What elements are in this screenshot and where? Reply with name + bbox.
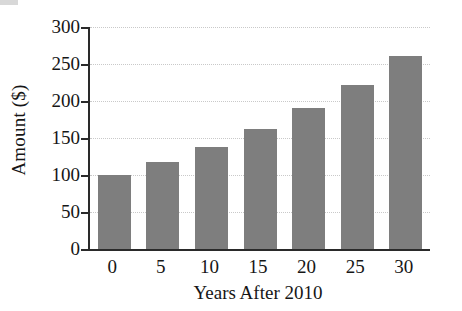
- y-axis-tick: [81, 101, 90, 103]
- x-axis-tick-label: 10: [186, 256, 232, 278]
- y-axis-tick: [81, 138, 90, 140]
- y-axis-tick-label: 300: [20, 16, 80, 38]
- y-axis-tick: [81, 27, 90, 29]
- bar: [195, 147, 228, 249]
- x-axis-tick-label: 0: [89, 256, 135, 278]
- bar: [146, 162, 179, 249]
- y-axis-tick-label: 50: [20, 201, 80, 223]
- y-axis-tick-label: 0: [20, 238, 80, 260]
- y-axis-tick: [81, 249, 90, 251]
- y-axis-tick-label: 200: [20, 90, 80, 112]
- y-axis-tick-label: 250: [20, 53, 80, 75]
- plot-area: [88, 27, 430, 251]
- x-axis-tick-label: 30: [381, 256, 427, 278]
- x-axis-tick-label: 5: [138, 256, 184, 278]
- y-axis-tick-label: 100: [20, 164, 80, 186]
- x-axis-tick-label: 20: [284, 256, 330, 278]
- x-axis-tick-label: 15: [235, 256, 281, 278]
- y-axis-tick: [81, 175, 90, 177]
- x-axis-label: Years After 2010: [88, 282, 428, 304]
- bar: [341, 85, 374, 249]
- bar: [244, 129, 277, 249]
- bar: [292, 108, 325, 249]
- y-axis-tick: [81, 212, 90, 214]
- bar-chart-figure: Amount ($) 050100150200250300 0510152025…: [0, 0, 462, 311]
- bar-series: [90, 27, 430, 249]
- x-axis-tick-label: 25: [332, 256, 378, 278]
- y-axis-tick-label: 150: [20, 127, 80, 149]
- bar: [98, 175, 131, 249]
- y-axis-tick: [81, 64, 90, 66]
- bar: [389, 56, 422, 249]
